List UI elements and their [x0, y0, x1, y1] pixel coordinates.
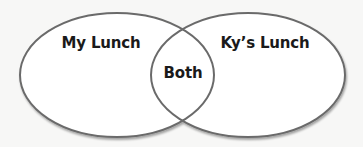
intersection-label: Both [164, 64, 203, 82]
left-set-label: My Lunch [62, 34, 141, 52]
venn-diagram: My Lunch Ky’s Lunch Both [0, 0, 363, 147]
right-set-label: Ky’s Lunch [221, 34, 310, 52]
